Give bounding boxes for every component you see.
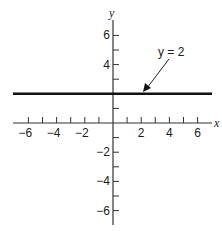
equation-label: y = 2	[158, 45, 185, 59]
x-tick-label: 2	[138, 126, 145, 140]
y-tick-label: −2	[96, 145, 110, 159]
x-tick-label: 4	[166, 126, 173, 140]
x-tick-label: −6	[19, 126, 33, 140]
x-tick-label: 6	[194, 126, 201, 140]
y-tick-label: −4	[96, 174, 110, 188]
x-tick-label: −4	[47, 126, 61, 140]
y-tick-label: 4	[103, 58, 110, 72]
y-axis-label: y	[108, 6, 115, 20]
annotation-arrow	[147, 59, 169, 88]
y-tick-label: 6	[103, 28, 110, 42]
chart: x y y = 2 −6−4−224664−2−4−6	[0, 0, 222, 231]
y-tick-label: −6	[96, 204, 110, 218]
x-tick-label: −2	[75, 126, 89, 140]
x-axis-label: x	[213, 116, 220, 130]
